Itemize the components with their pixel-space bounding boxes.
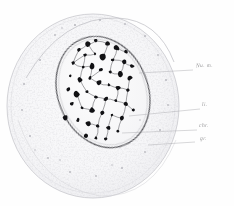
label-chromatin: chr. <box>199 122 209 128</box>
cytoplasm-granule <box>61 27 63 29</box>
cytoplasm-granule <box>34 149 36 151</box>
drawing-canvas <box>0 0 234 206</box>
cytoplasm-granule <box>95 175 97 177</box>
cytoplasm-granule <box>54 34 56 36</box>
cytoplasm-granule <box>159 129 161 131</box>
cytoplasm-granule <box>23 83 25 85</box>
cytoplasm-granule <box>121 167 123 169</box>
cytoplasm-granule <box>144 35 146 37</box>
cytoplasm-granule <box>39 59 41 61</box>
label-granules: gr. <box>200 135 207 141</box>
cytoplasm-granule <box>47 157 49 159</box>
cytoplasm-granule <box>167 104 169 106</box>
cytoplasm-granule <box>29 135 31 137</box>
cell-illustration-figure: Nu. m. li. chr. gr. <box>0 0 234 206</box>
cytoplasm-granule <box>149 94 151 96</box>
label-nuclear-membrane: Nu. m. <box>196 62 213 68</box>
cytoplasm-granule <box>69 171 71 173</box>
cytoplasm-granule <box>21 109 23 111</box>
cytoplasm-granule <box>144 151 146 153</box>
cytoplasm-granule <box>124 23 126 25</box>
cytoplasm-granule <box>111 164 113 166</box>
cytoplasm-granule <box>165 79 167 81</box>
cytoplasm-granule <box>139 119 141 121</box>
cytoplasm-granule <box>157 54 159 56</box>
label-linin: li. <box>202 101 208 107</box>
cytoplasm-granule <box>59 159 61 161</box>
cytoplasm-granule <box>74 24 76 26</box>
cytoplasm-granule <box>99 19 101 21</box>
